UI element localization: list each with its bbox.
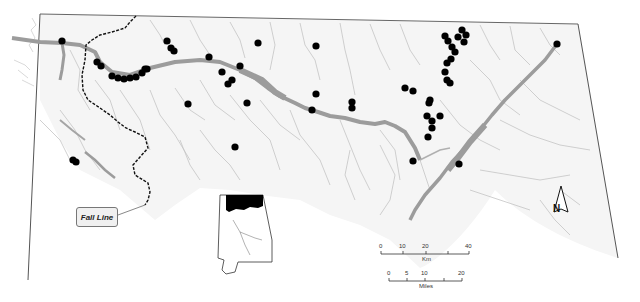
site-point [436, 112, 443, 119]
site-point [308, 106, 315, 113]
site-point [97, 62, 104, 69]
site-point [460, 38, 467, 45]
west-border [28, 14, 40, 280]
site-point [141, 65, 148, 72]
site-point [444, 37, 451, 44]
scale-mi-unit: Miles [419, 283, 433, 289]
map-canvas [0, 0, 640, 302]
site-point [132, 73, 139, 80]
site-point [455, 160, 462, 167]
site-point [163, 37, 170, 44]
site-point [443, 59, 450, 66]
site-point [228, 76, 235, 83]
site-point [72, 158, 79, 165]
site-point [425, 99, 432, 106]
scale-km-tick-10: 10 [399, 243, 406, 249]
site-point [451, 48, 458, 55]
site-point [243, 99, 250, 106]
site-point [409, 157, 416, 164]
north-label: N [553, 203, 560, 214]
site-point [428, 117, 435, 124]
site-point [58, 37, 65, 44]
site-point [184, 100, 191, 107]
site-point [236, 62, 243, 69]
site-point [428, 124, 435, 131]
fall-line-label: Fall Line [76, 207, 118, 227]
fall-line-leader [118, 205, 145, 215]
scale-km-tick-40: 40 [465, 243, 472, 249]
scale-km-tick-0: 0 [379, 243, 382, 249]
study-region-shaded [40, 14, 618, 268]
site-point [401, 84, 408, 91]
site-point [170, 47, 177, 54]
site-point [409, 87, 416, 94]
alabama-inset [218, 195, 272, 274]
site-point [446, 79, 453, 86]
site-point [553, 40, 560, 47]
scale-km-unit: Km [422, 256, 431, 262]
site-point [441, 68, 448, 75]
site-point [424, 133, 431, 140]
scale-bar-miles [389, 278, 462, 281]
site-point [312, 42, 319, 49]
site-point [205, 53, 212, 60]
site-point [126, 74, 133, 81]
site-point [454, 33, 461, 40]
site-point [254, 39, 261, 46]
scale-mi-tick-0: 0 [387, 270, 390, 276]
scale-mi-tick-20: 20 [458, 270, 465, 276]
scale-km-tick-20: 20 [422, 243, 429, 249]
site-point [218, 68, 225, 75]
scale-mi-tick-10: 10 [421, 270, 428, 276]
site-point [231, 143, 238, 150]
western-tributaries [14, 18, 36, 86]
site-point [348, 104, 355, 111]
site-point [462, 31, 469, 38]
site-point [312, 90, 319, 97]
site-point [120, 75, 127, 82]
site-point [114, 74, 121, 81]
scale-mi-tick-5: 5 [405, 270, 408, 276]
